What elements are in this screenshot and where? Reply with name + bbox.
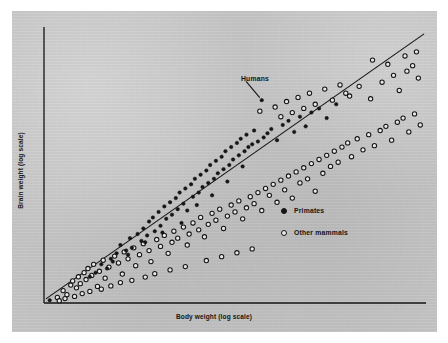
data-point: [290, 196, 294, 200]
data-point: [61, 288, 65, 292]
data-point: [349, 155, 353, 159]
data-point: [260, 98, 264, 102]
data-point: [140, 239, 144, 243]
data-point: [370, 58, 374, 62]
data-point: [302, 166, 306, 170]
data-point: [313, 102, 317, 106]
data-point: [99, 287, 103, 291]
data-point: [325, 153, 329, 157]
data-point: [63, 296, 67, 300]
data-point: [71, 279, 75, 283]
data-point: [80, 291, 84, 295]
data-point: [118, 280, 122, 284]
data-point: [147, 220, 151, 224]
data-point: [158, 244, 162, 248]
data-point: [294, 170, 298, 174]
legend-item-primates: Primates: [281, 207, 324, 214]
data-point: [197, 228, 201, 232]
data-point: [321, 171, 325, 175]
data-point: [275, 200, 279, 204]
data-point: [266, 132, 270, 136]
data-point: [334, 103, 338, 107]
data-point: [208, 163, 212, 167]
data-point: [298, 115, 302, 119]
data-point: [296, 95, 300, 99]
data-point: [367, 132, 371, 136]
data-point: [94, 271, 98, 275]
data-point: [378, 128, 382, 132]
data-point: [163, 205, 167, 209]
data-point: [258, 109, 262, 113]
annotation-leader-line: [246, 81, 260, 97]
data-point: [92, 262, 96, 266]
data-point: [185, 243, 189, 247]
data-point: [305, 177, 309, 181]
data-point: [206, 222, 210, 226]
data-point: [181, 225, 185, 229]
data-point: [233, 210, 237, 214]
legend-marker-filled-circle-icon: [281, 208, 287, 214]
data-point: [174, 196, 178, 200]
data-point: [88, 289, 92, 293]
data-point: [222, 167, 226, 171]
legend-label-other-mammals: Other mammals: [294, 229, 348, 236]
data-point: [220, 155, 224, 159]
data-point: [418, 123, 422, 127]
data-point: [186, 209, 190, 213]
data-point: [120, 272, 124, 276]
data-point: [76, 275, 80, 279]
data-point: [159, 224, 163, 228]
data-point: [391, 73, 395, 77]
data-point: [101, 258, 105, 262]
data-point: [372, 144, 376, 148]
data-point: [407, 130, 411, 134]
data-point: [361, 148, 365, 152]
data-point: [143, 275, 147, 279]
data-point: [216, 172, 220, 176]
data-point: [287, 119, 291, 123]
data-point: [134, 264, 138, 268]
data-point: [176, 207, 180, 211]
data-point: [286, 174, 290, 178]
data-point: [224, 149, 228, 153]
data-point: [202, 235, 206, 239]
data-point: [304, 125, 308, 129]
data-point: [155, 237, 159, 241]
data-point: [283, 188, 287, 192]
data-point: [166, 251, 170, 255]
data-point: [128, 236, 132, 240]
legend-label-primates: Primates: [294, 207, 324, 214]
data-point: [270, 127, 274, 131]
data-point: [328, 164, 332, 168]
legend-marker-open-circle-icon: [281, 230, 287, 236]
data-point: [240, 217, 244, 221]
data-point: [386, 62, 390, 66]
data-point: [229, 145, 233, 149]
data-point: [317, 157, 321, 161]
data-point: [184, 187, 188, 191]
data-point: [212, 177, 216, 181]
data-point: [204, 258, 208, 262]
data-point: [340, 145, 344, 149]
data-point: [105, 267, 109, 271]
humans-annotation-label: Humans: [241, 75, 269, 82]
data-point: [336, 160, 340, 164]
data-point: [103, 276, 107, 280]
data-point: [271, 182, 275, 186]
data-point: [275, 138, 279, 142]
data-point: [84, 277, 88, 281]
data-point: [178, 191, 182, 195]
data-point: [126, 257, 130, 261]
data-point: [309, 161, 313, 165]
data-point: [235, 141, 239, 145]
data-point: [142, 227, 146, 231]
data-point: [368, 97, 372, 101]
data-point: [187, 232, 191, 236]
data-point: [405, 69, 409, 73]
data-point: [116, 261, 120, 265]
data-point: [239, 137, 243, 141]
data-point: [302, 106, 306, 110]
data-point: [214, 159, 218, 163]
data-point: [180, 221, 184, 225]
data-point: [256, 190, 260, 194]
